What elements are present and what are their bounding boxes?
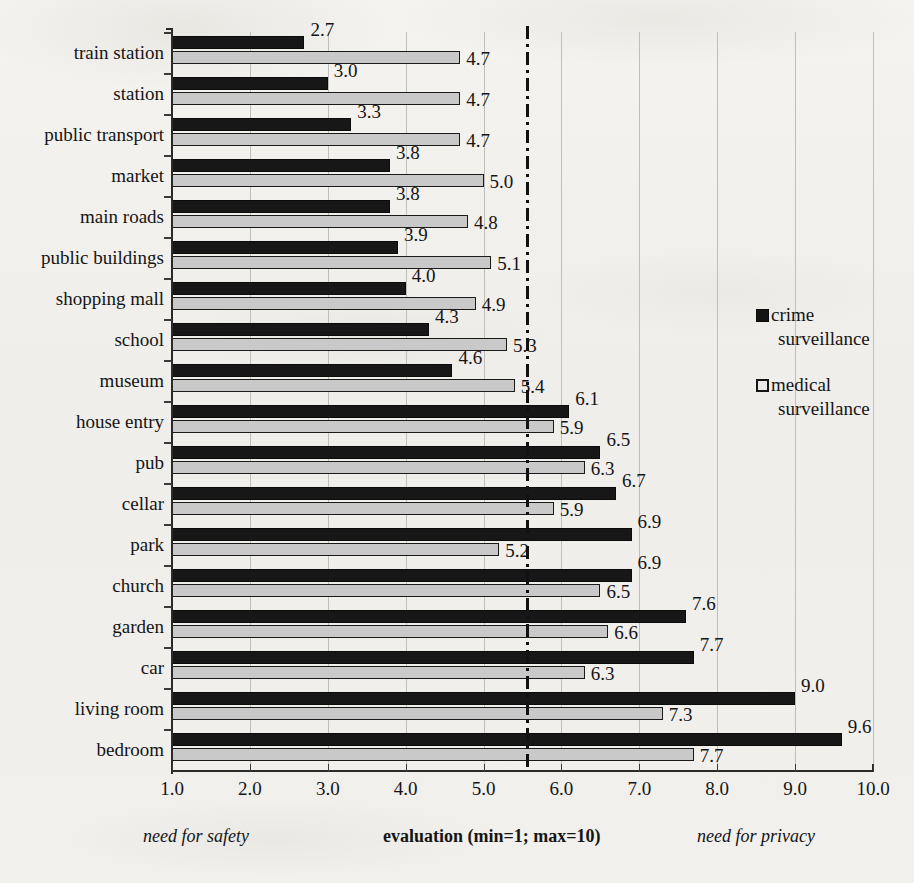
x-axis-tick-label: 1.0 <box>142 779 202 799</box>
x-axis-tick <box>328 764 329 772</box>
bar-chart: 2.74.73.04.73.34.73.85.03.84.83.95.14.04… <box>0 0 914 883</box>
category-label: main roads <box>4 207 164 227</box>
bar-value-label-medical: 4.7 <box>466 49 490 68</box>
category-label: public buildings <box>4 248 164 268</box>
x-axis-tick <box>873 764 874 772</box>
x-axis-tick-label: 6.0 <box>531 779 591 799</box>
caption-need-for-privacy: need for privacy <box>697 826 815 846</box>
x-axis-tick-label: 3.0 <box>298 779 358 799</box>
bar-crime-surveillance <box>172 405 569 418</box>
bar-value-label-crime: 3.3 <box>357 102 381 121</box>
category-label: pub <box>4 453 164 473</box>
category-label: shopping mall <box>4 289 164 309</box>
category-label: train station <box>4 43 164 63</box>
category-label: bedroom <box>4 740 164 760</box>
bar-crime-surveillance <box>172 610 686 623</box>
x-axis-tick-label: 8.0 <box>687 779 747 799</box>
y-axis-tick <box>164 401 172 403</box>
category-label: public transport <box>4 125 164 145</box>
bar-group: 3.85.0 <box>172 155 873 196</box>
bar-medical-surveillance <box>172 174 484 187</box>
bar-crime-surveillance <box>172 528 632 541</box>
bar-crime-surveillance <box>172 446 600 459</box>
y-axis-tick <box>164 278 172 280</box>
bar-crime-surveillance <box>172 569 632 582</box>
legend-label-medical-line2: surveillance <box>778 397 906 421</box>
bar-value-label-crime: 6.9 <box>638 512 662 531</box>
bar-value-label-medical: 6.3 <box>591 459 615 478</box>
bar-value-label-medical: 4.7 <box>466 131 490 150</box>
x-axis-tick <box>561 764 562 772</box>
bar-crime-surveillance <box>172 118 351 131</box>
x-axis-tick <box>484 764 485 772</box>
bar-crime-surveillance <box>172 651 694 664</box>
bar-group: 9.07.3 <box>172 688 873 729</box>
category-label: house entry <box>4 412 164 432</box>
legend-label-medical: medical <box>771 374 831 395</box>
x-axis-tick <box>250 764 251 772</box>
x-axis-tick <box>717 764 718 772</box>
bar-value-label-medical: 6.3 <box>591 664 615 683</box>
bar-value-label-crime: 6.9 <box>638 553 662 572</box>
bar-value-label-crime: 7.7 <box>700 635 724 654</box>
bar-value-label-crime: 6.1 <box>575 389 599 408</box>
open-square-icon <box>756 379 769 392</box>
bar-value-label-medical: 7.7 <box>700 746 724 765</box>
category-label: church <box>4 576 164 596</box>
y-axis-tick <box>164 196 172 198</box>
threshold-line-5-5 <box>526 26 529 772</box>
bar-group: 3.84.8 <box>172 196 873 237</box>
bar-group: 3.04.7 <box>172 73 873 114</box>
bar-group: 3.34.7 <box>172 114 873 155</box>
x-axis-tick-label: 5.0 <box>454 779 514 799</box>
bar-crime-surveillance <box>172 733 842 746</box>
y-axis-tick <box>164 688 172 690</box>
x-axis-line <box>171 770 874 772</box>
bar-value-label-crime: 4.0 <box>412 266 436 285</box>
y-axis-top-cap <box>166 28 173 30</box>
category-label: car <box>4 658 164 678</box>
bar-crime-surveillance <box>172 364 452 377</box>
y-axis-tick <box>164 32 172 34</box>
y-axis-tick <box>164 647 172 649</box>
bar-value-label-medical: 5.4 <box>521 377 545 396</box>
bar-value-label-crime: 4.6 <box>458 348 482 367</box>
bar-medical-surveillance <box>172 297 476 310</box>
category-label: station <box>4 84 164 104</box>
bar-value-label-medical: 5.3 <box>513 336 537 355</box>
x-axis-tick-label: 10.0 <box>843 779 903 799</box>
y-axis-tick <box>164 319 172 321</box>
bar-value-label-crime: 6.7 <box>622 471 646 490</box>
bar-medical-surveillance <box>172 338 507 351</box>
bar-value-label-crime: 9.0 <box>801 676 825 695</box>
bar-group: 7.66.6 <box>172 606 873 647</box>
chart-legend: crime surveillance medical surveillance <box>756 303 906 443</box>
bar-medical-surveillance <box>172 379 515 392</box>
x-axis-tick-label: 9.0 <box>765 779 825 799</box>
bar-value-label-crime: 4.3 <box>435 307 459 326</box>
bar-value-label-crime: 7.6 <box>692 594 716 613</box>
bar-crime-surveillance <box>172 159 390 172</box>
bar-group: 6.56.3 <box>172 442 873 483</box>
y-axis-tick <box>164 524 172 526</box>
bar-value-label-medical: 4.8 <box>474 213 498 232</box>
bar-value-label-crime: 2.7 <box>310 20 334 39</box>
bar-value-label-crime: 3.8 <box>396 143 420 162</box>
bar-value-label-medical: 6.5 <box>606 582 630 601</box>
bar-value-label-crime: 6.5 <box>606 430 630 449</box>
bar-group: 6.95.2 <box>172 524 873 565</box>
x-axis-tick <box>639 764 640 772</box>
bar-medical-surveillance <box>172 666 585 679</box>
bar-crime-surveillance <box>172 77 328 90</box>
legend-label-crime: crime <box>771 304 814 325</box>
bar-group: 7.76.3 <box>172 647 873 688</box>
caption-need-for-safety: need for safety <box>143 826 249 846</box>
bar-crime-surveillance <box>172 487 616 500</box>
filled-square-icon <box>756 309 769 322</box>
bar-group: 6.96.5 <box>172 565 873 606</box>
x-axis-tick-label: 2.0 <box>220 779 280 799</box>
y-axis-tick <box>164 155 172 157</box>
bar-group: 6.75.9 <box>172 483 873 524</box>
x-axis-tick <box>406 764 407 772</box>
bar-medical-surveillance <box>172 584 600 597</box>
